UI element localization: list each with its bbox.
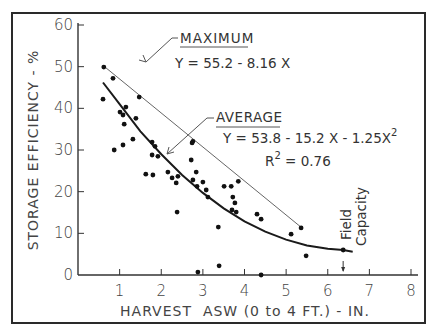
x-tick-label: 5 bbox=[281, 282, 291, 300]
data-point bbox=[189, 158, 194, 163]
data-point bbox=[195, 184, 200, 189]
data-point bbox=[217, 263, 222, 268]
data-point bbox=[175, 210, 180, 215]
data-point bbox=[174, 181, 179, 186]
y-tick-label: 50 bbox=[54, 58, 73, 76]
data-point bbox=[124, 105, 129, 110]
data-point bbox=[131, 137, 136, 142]
x-tick-label: 3 bbox=[198, 282, 208, 300]
data-point bbox=[150, 140, 155, 145]
maximum-equation: Y = 55.2 - 8.16 X bbox=[174, 55, 290, 71]
data-point bbox=[191, 178, 196, 183]
y-tick-label: 10 bbox=[54, 224, 73, 242]
data-point bbox=[134, 116, 139, 121]
average-equation: Y = 53.8 - 15.2 X - 1.25X2 bbox=[222, 127, 397, 146]
data-point bbox=[289, 232, 294, 237]
data-point bbox=[137, 95, 142, 100]
r-squared: R2 = 0.76 bbox=[265, 150, 331, 169]
data-point bbox=[150, 153, 155, 158]
r-squared-value: = 0.76 bbox=[281, 153, 331, 169]
data-point bbox=[201, 180, 206, 185]
y-tick-label: 30 bbox=[54, 141, 73, 159]
data-point bbox=[190, 141, 195, 146]
data-point bbox=[341, 248, 346, 253]
average-label: AVERAGE bbox=[216, 109, 282, 125]
data-point bbox=[233, 201, 238, 206]
y-tick-label: 40 bbox=[54, 99, 73, 117]
x-tick-label: 7 bbox=[365, 282, 375, 300]
maximum-label: MAXIMUM bbox=[180, 30, 254, 46]
data-point bbox=[111, 76, 116, 81]
y-tick-label: 0 bbox=[63, 266, 73, 284]
y-axis-title: STORAGE EFFICIENCY - % bbox=[25, 50, 41, 251]
data-point bbox=[196, 270, 201, 275]
data-point bbox=[255, 212, 260, 217]
maximum-line bbox=[104, 66, 301, 227]
data-point bbox=[204, 188, 209, 193]
r-squared-symbol: R bbox=[265, 153, 274, 169]
data-point bbox=[121, 113, 126, 118]
data-point bbox=[259, 273, 264, 278]
scatter-chart: 123456780102030405060 STORAGE EFFICIENCY… bbox=[0, 0, 437, 336]
data-point bbox=[230, 195, 235, 200]
data-point bbox=[143, 172, 148, 177]
average-equation-exponent: 2 bbox=[391, 127, 397, 138]
y-tick-label: 20 bbox=[54, 183, 73, 201]
data-point bbox=[170, 176, 175, 181]
x-tick-label: 4 bbox=[240, 282, 250, 300]
x-tick-label: 2 bbox=[156, 282, 166, 300]
x-tick-label: 1 bbox=[115, 282, 125, 300]
data-point bbox=[101, 65, 106, 70]
field-capacity-arrow-head bbox=[341, 267, 345, 272]
data-point bbox=[166, 170, 171, 175]
data-point bbox=[153, 144, 158, 149]
field-capacity-label-2: Capacity bbox=[353, 187, 369, 246]
field-capacity-label-1: Field bbox=[338, 209, 354, 240]
x-tick-label: 6 bbox=[323, 282, 333, 300]
data-point bbox=[156, 154, 161, 159]
x-axis-title: HARVEST ASW (0 to 4 FT.) - IN. bbox=[120, 303, 370, 319]
data-point bbox=[151, 173, 156, 178]
field-capacity-arrow bbox=[341, 261, 345, 272]
y-tick-label: 60 bbox=[54, 16, 73, 34]
data-point bbox=[230, 208, 235, 213]
data-point bbox=[234, 210, 239, 215]
data-point bbox=[229, 184, 234, 189]
data-point bbox=[216, 225, 221, 230]
data-point bbox=[194, 170, 199, 175]
data-point bbox=[121, 143, 126, 148]
data-point bbox=[206, 195, 211, 200]
maximum-leader-line bbox=[146, 38, 178, 62]
average-equation-main: Y = 53.8 - 15.2 X - 1.25X bbox=[222, 130, 391, 146]
x-tick-label: 8 bbox=[406, 282, 416, 300]
data-point bbox=[176, 174, 181, 179]
data-point bbox=[259, 217, 264, 222]
data-point bbox=[299, 226, 304, 231]
maximum-leader-arrow bbox=[139, 55, 146, 62]
data-point bbox=[112, 148, 117, 153]
data-point bbox=[101, 97, 106, 102]
data-point bbox=[122, 122, 127, 127]
data-point bbox=[236, 179, 241, 184]
data-point bbox=[304, 253, 309, 258]
data-point bbox=[222, 184, 227, 189]
